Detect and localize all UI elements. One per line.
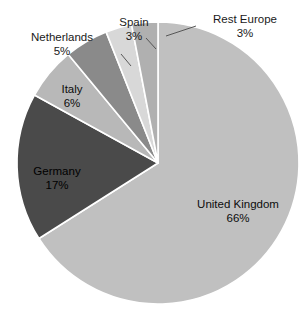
slice-label-netherlands-name: Netherlands bbox=[6, 31, 118, 45]
slice-label-rest-europe-name: Rest Europe bbox=[196, 13, 294, 27]
slice-label-united-kingdom-name: United Kingdom bbox=[186, 198, 290, 212]
slice-label-spain-value: 3% bbox=[112, 30, 156, 44]
slice-label-germany-name: Germany bbox=[18, 165, 96, 179]
slice-label-italy: Italy 6% bbox=[47, 83, 97, 110]
slice-label-germany-value: 17% bbox=[18, 179, 96, 193]
slice-label-germany: Germany 17% bbox=[18, 165, 96, 192]
slice-label-netherlands-value: 5% bbox=[6, 45, 118, 59]
slice-label-netherlands: Netherlands 5% bbox=[6, 31, 118, 58]
slice-label-spain: Spain 3% bbox=[112, 16, 156, 43]
slice-label-rest-europe-value: 3% bbox=[196, 27, 294, 41]
slice-label-italy-value: 6% bbox=[47, 97, 97, 111]
slice-label-spain-name: Spain bbox=[112, 16, 156, 30]
slice-label-italy-name: Italy bbox=[47, 83, 97, 97]
slice-label-rest-europe: Rest Europe 3% bbox=[196, 13, 294, 40]
pie-chart-figure: United Kingdom 66% Germany 17% Italy 6% … bbox=[0, 0, 304, 317]
pie-slice-group bbox=[17, 22, 299, 304]
slice-label-united-kingdom-value: 66% bbox=[186, 212, 290, 226]
slice-label-united-kingdom: United Kingdom 66% bbox=[186, 198, 290, 225]
